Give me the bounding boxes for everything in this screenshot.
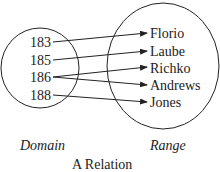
range-item: Laube (150, 44, 185, 59)
relation-diagram: 183 185 186 188 Florio Laube Richko Andr… (0, 0, 220, 172)
range-label: Range (149, 138, 186, 153)
domain-item: 185 (30, 53, 51, 68)
domain-item: 186 (30, 70, 51, 85)
mapping-arrow (53, 67, 147, 77)
mapping-arrow (53, 33, 147, 42)
domain-label: Domain (19, 138, 65, 153)
caption: A Relation (72, 157, 132, 172)
range-item: Jones (150, 95, 181, 110)
range-item: Andrews (150, 78, 201, 93)
range-item: Florio (150, 26, 184, 41)
domain-item: 188 (30, 88, 51, 103)
mapping-arrow (53, 77, 147, 85)
mapping-arrow (53, 51, 147, 60)
mapping-arrow (53, 95, 147, 102)
domain-item: 183 (30, 35, 51, 50)
range-item: Richko (150, 61, 190, 76)
